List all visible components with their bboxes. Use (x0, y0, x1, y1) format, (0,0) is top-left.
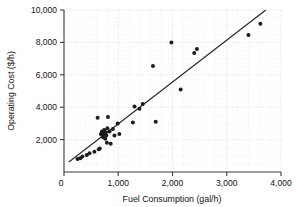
y-tick-label: 6,000 (36, 70, 58, 80)
y-axis-ticks (60, 10, 64, 140)
x-tick-label: 3,000 (216, 178, 238, 188)
y-tick-label: 10,000 (31, 5, 57, 15)
x-tick-label: 4,000 (270, 178, 292, 188)
regression-line (69, 10, 266, 162)
data-point (192, 51, 196, 55)
data-point (133, 104, 137, 108)
y-axis-tick-labels: 02,0004,0006,0008,00010,000 (31, 5, 64, 188)
data-point (169, 40, 173, 44)
data-point (258, 22, 262, 26)
data-point (92, 150, 96, 154)
data-point (179, 87, 183, 91)
data-point (112, 134, 116, 138)
y-tick-label: 4,000 (36, 102, 58, 112)
data-point (104, 134, 108, 138)
y-axis-title: Operating Cost ($/h) (6, 51, 16, 131)
data-point (246, 33, 250, 37)
x-axis-title: Fuel Consumption (gal/h) (123, 194, 222, 204)
data-point (106, 115, 110, 119)
data-points (76, 22, 263, 161)
data-point (154, 120, 158, 124)
data-point (80, 155, 84, 159)
data-point (105, 141, 109, 145)
x-tick-label: 2,000 (162, 178, 184, 188)
x-tick-label: 1,000 (108, 178, 130, 188)
data-point (116, 121, 120, 125)
y-tick-label: 8,000 (36, 37, 58, 47)
trend-line (69, 10, 266, 162)
data-point (109, 142, 113, 146)
data-point (131, 121, 135, 125)
y-tick-label: 2,000 (36, 135, 58, 145)
data-point (108, 130, 112, 134)
data-point (117, 132, 121, 136)
data-point (87, 151, 91, 155)
data-point (195, 47, 199, 51)
x-axis-tick-labels: 1,0002,0003,0004,000 (108, 178, 292, 188)
y-tick-label: 0 (59, 178, 64, 188)
data-point (111, 127, 115, 131)
data-point (137, 107, 141, 111)
chart-canvas: 02,0004,0006,0008,00010,000 1,0002,0003,… (0, 0, 296, 207)
scatter-chart-figure: 02,0004,0006,0008,00010,000 1,0002,0003,… (0, 0, 296, 207)
data-point (141, 102, 145, 106)
data-point (96, 116, 100, 120)
data-point (98, 147, 102, 151)
x-axis-ticks (64, 172, 281, 176)
data-point (151, 64, 155, 68)
